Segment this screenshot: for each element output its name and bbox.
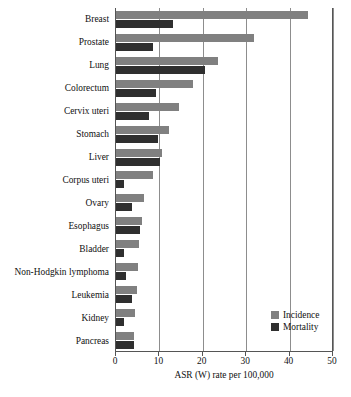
category-label-kidney: Kidney xyxy=(81,313,109,323)
mortality-swatch-icon xyxy=(271,323,279,331)
bar-chart: BreastProstateLungColorectumCervix uteri… xyxy=(0,0,351,397)
bar-group xyxy=(116,169,332,192)
bar-mortality-stomach xyxy=(116,135,158,143)
bar-incidence-ovary xyxy=(116,194,144,202)
bar-mortality-leukemia xyxy=(116,295,132,303)
bar-mortality-pancreas xyxy=(116,341,134,349)
x-tick-label-20: 20 xyxy=(197,356,206,367)
category-label-corpus-uteri: Corpus uteri xyxy=(62,175,109,185)
gridline-50 xyxy=(333,8,334,351)
category-label-prostate: Prostate xyxy=(79,37,109,47)
bar-group xyxy=(116,123,332,146)
bar-incidence-colorectum xyxy=(116,80,193,88)
bar-mortality-lung xyxy=(116,66,205,74)
bar-incidence-prostate xyxy=(116,34,254,42)
category-label-stomach: Stomach xyxy=(76,129,109,139)
bar-incidence-leukemia xyxy=(116,286,137,294)
bar-group xyxy=(116,283,332,306)
incidence-swatch-icon xyxy=(271,311,279,319)
bar-mortality-liver xyxy=(116,158,160,166)
x-axis-title: ASR (W) rate per 100,000 xyxy=(115,370,333,380)
bar-incidence-liver xyxy=(116,149,162,157)
bar-group xyxy=(116,214,332,237)
bar-group xyxy=(116,329,332,352)
bar-group xyxy=(116,260,332,283)
bar-incidence-pancreas xyxy=(116,332,134,340)
bar-group xyxy=(116,100,332,123)
x-tick-label-50: 50 xyxy=(327,356,336,367)
x-tick-label-10: 10 xyxy=(154,356,163,367)
legend: Incidence Mortality xyxy=(271,310,319,332)
x-tick-label-30: 30 xyxy=(241,356,250,367)
bar-group xyxy=(116,146,332,169)
category-label-leukemia: Leukemia xyxy=(72,290,109,300)
category-label-bladder: Bladder xyxy=(79,244,109,254)
bar-mortality-cervix-uteri xyxy=(116,112,149,120)
legend-label-mortality: Mortality xyxy=(283,322,318,332)
bar-incidence-esophagus xyxy=(116,217,142,225)
bar-incidence-lung xyxy=(116,57,218,65)
bar-incidence-kidney xyxy=(116,309,135,317)
bar-mortality-breast xyxy=(116,20,173,28)
legend-item-incidence: Incidence xyxy=(271,310,319,320)
legend-label-incidence: Incidence xyxy=(283,310,319,320)
bar-incidence-cervix-uteri xyxy=(116,103,179,111)
bar-mortality-colorectum xyxy=(116,89,156,97)
bar-incidence-non-hodgkin-lymphoma xyxy=(116,263,138,271)
bar-group xyxy=(116,8,332,31)
bar-group xyxy=(116,54,332,77)
category-label-esophagus: Esophagus xyxy=(68,221,109,231)
bar-mortality-corpus-uteri xyxy=(116,180,124,188)
bar-mortality-bladder xyxy=(116,249,124,257)
category-label-liver: Liver xyxy=(89,152,109,162)
bar-incidence-bladder xyxy=(116,240,139,248)
bar-group xyxy=(116,237,332,260)
bar-group xyxy=(116,31,332,54)
bar-mortality-non-hodgkin-lymphoma xyxy=(116,272,126,280)
bar-mortality-esophagus xyxy=(116,226,140,234)
bar-mortality-prostate xyxy=(116,43,153,51)
legend-item-mortality: Mortality xyxy=(271,322,319,332)
bar-incidence-breast xyxy=(116,11,308,19)
category-label-breast: Breast xyxy=(85,14,109,24)
bar-incidence-stomach xyxy=(116,126,169,134)
category-label-ovary: Ovary xyxy=(86,198,109,208)
bar-incidence-corpus-uteri xyxy=(116,171,153,179)
x-tick-label-0: 0 xyxy=(113,356,118,367)
plot-area xyxy=(115,8,333,352)
bar-rows xyxy=(116,8,332,351)
category-label-lung: Lung xyxy=(89,60,109,70)
bar-group xyxy=(116,191,332,214)
bar-mortality-kidney xyxy=(116,318,124,326)
category-label-cervix-uteri: Cervix uteri xyxy=(64,106,109,116)
bar-group xyxy=(116,77,332,100)
x-tick-label-40: 40 xyxy=(284,356,293,367)
category-axis-labels: BreastProstateLungColorectumCervix uteri… xyxy=(0,8,112,352)
category-label-non-hodgkin-lymphoma: Non-Hodgkin lymphoma xyxy=(14,267,109,277)
category-label-pancreas: Pancreas xyxy=(76,336,109,346)
bar-mortality-ovary xyxy=(116,203,132,211)
x-axis-ticks: 01020304050 xyxy=(115,352,333,368)
category-label-colorectum: Colorectum xyxy=(65,83,109,93)
